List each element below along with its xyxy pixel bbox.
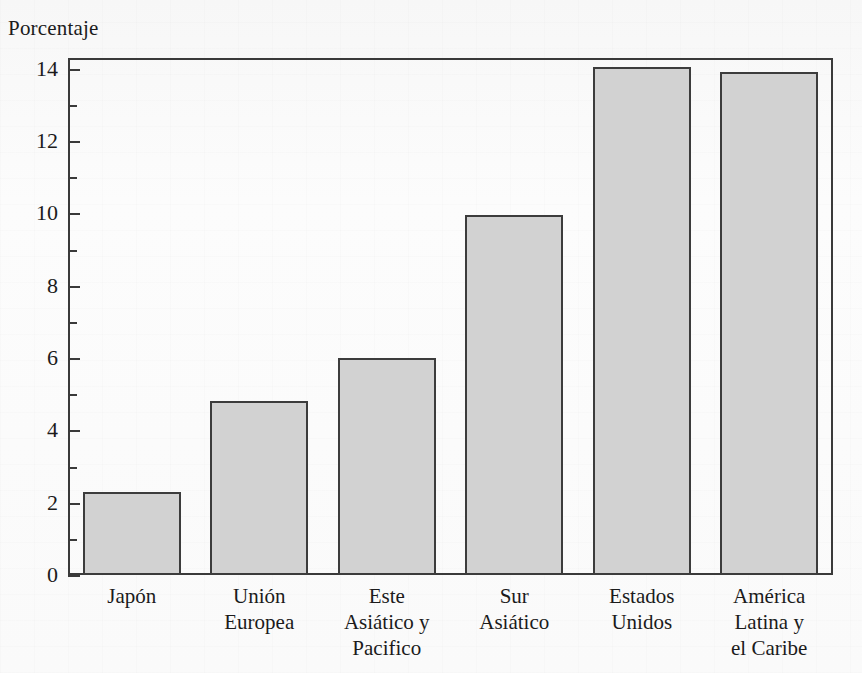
x-axis-category-label: EsteAsiático yPacifico [323,583,451,661]
y-axis-tick [68,69,80,71]
y-axis-tick-label: 6 [10,347,58,369]
x-axis-label-line: Unidos [578,609,706,635]
x-axis-category-label: UniónEuropea [196,583,324,635]
x-axis-label-line: Japón [68,583,196,609]
plot-area [68,58,833,575]
x-axis-label-line: Estados [578,583,706,609]
bar [465,215,563,575]
y-axis-tick-label: 12 [10,130,58,152]
y-axis-tick-label: 2 [10,492,58,514]
x-axis-category-labels: JapónUniónEuropeaEsteAsiático yPacificoS… [68,583,833,671]
y-axis-tick-label: 8 [10,275,58,297]
bar [720,72,818,575]
x-axis-label-line: Asiático y [323,609,451,635]
y-axis-tick [68,141,80,143]
y-axis-minor-tick [68,467,77,469]
x-axis-category-label: EstadosUnidos [578,583,706,635]
x-axis-label-line: Europea [196,609,324,635]
x-axis-label-line: Pacifico [323,635,451,661]
x-axis-label-line: Este [323,583,451,609]
x-axis-label-line: Asiático [451,609,579,635]
x-axis-label-line: el Caribe [706,635,834,661]
x-axis-label-line: Unión [196,583,324,609]
y-axis-minor-tick [68,322,77,324]
x-axis-label-line: Latina y [706,609,834,635]
y-axis-tick [68,430,80,432]
y-axis-minor-tick [68,250,77,252]
y-axis-tick [68,358,80,360]
bar [210,401,308,575]
y-axis-tick-label: 0 [10,564,58,586]
y-axis-minor-tick [68,539,77,541]
bar [338,358,436,575]
chart-page: Porcentaje 02468101214 JapónUniónEuropea… [0,0,862,673]
x-axis-category-label: AméricaLatina yel Caribe [706,583,834,661]
y-axis-tick-label: 4 [10,419,58,441]
y-axis-tick-label: 10 [10,202,58,224]
y-axis-minor-tick [68,394,77,396]
x-axis-label-line: Sur [451,583,579,609]
y-axis-tick-label: 14 [10,58,58,80]
y-axis-tick [68,286,80,288]
bar [83,492,181,575]
x-axis-category-label: SurAsiático [451,583,579,635]
y-axis-tick-labels: 02468101214 [0,0,58,673]
bar [593,67,691,575]
y-axis-minor-tick [68,105,77,107]
y-axis-tick [68,503,80,505]
y-axis-tick [68,575,80,577]
x-axis-category-label: Japón [68,583,196,609]
y-axis-minor-tick [68,177,77,179]
x-axis-label-line: América [706,583,834,609]
y-axis-tick [68,213,80,215]
